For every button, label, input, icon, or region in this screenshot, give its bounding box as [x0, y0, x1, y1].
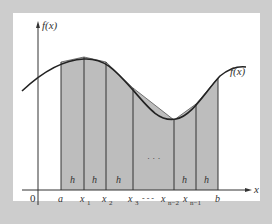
- tick-xn-2-sub: n−2: [168, 199, 179, 207]
- h-label: h: [116, 174, 121, 185]
- tick-x2-sub: 2: [109, 199, 113, 207]
- y-axis-label: f(x): [42, 19, 58, 32]
- h-label: h: [92, 174, 97, 185]
- tick-x3: x: [127, 193, 133, 204]
- y-axis-arrow-icon: [36, 21, 40, 28]
- tick-b: b: [215, 193, 220, 204]
- tick-dots: - - -: [142, 194, 154, 203]
- tick-xn-1-sub: n−1: [190, 199, 201, 207]
- h-label: h: [182, 174, 187, 185]
- h-label: h: [204, 174, 209, 185]
- tick-x3-sub: 3: [135, 199, 139, 207]
- tick-x1: x: [79, 193, 85, 204]
- curve-label: f(x): [230, 65, 246, 78]
- tick-labels: a x 1 x 2 x 3 - - - x n−2 x n−1 b: [58, 193, 220, 207]
- middle-ellipsis: · · ·: [147, 153, 161, 163]
- x-axis-arrow-icon: [245, 188, 252, 192]
- tick-a: a: [58, 193, 63, 204]
- tick-x2: x: [101, 193, 107, 204]
- tick-xn-1: x: [182, 193, 188, 204]
- shaded-area: [61, 57, 218, 190]
- x-axis-label: x: [253, 183, 259, 195]
- tick-xn-2: x: [160, 193, 166, 204]
- h-label: h: [70, 174, 75, 185]
- trapezoid-rule-diagram: f(x) f(x) x 0 h h h h h · · · a x 1 x 2 …: [0, 0, 272, 224]
- tick-x1-sub: 1: [87, 199, 91, 207]
- origin-label: 0: [30, 192, 36, 204]
